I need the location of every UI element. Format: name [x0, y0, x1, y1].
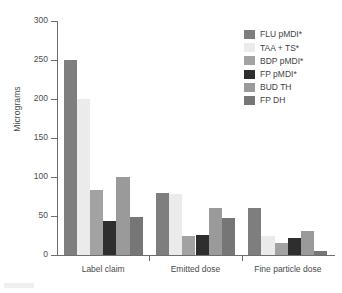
bar — [209, 208, 222, 255]
page-edge-artifact — [4, 283, 34, 288]
y-axis-tick-label: 300 — [34, 15, 48, 25]
bar — [196, 235, 209, 255]
y-axis-tick-label: 200 — [34, 93, 48, 103]
x-axis-category-label: Fine particle dose — [242, 264, 334, 274]
y-axis-tick-label: 250 — [34, 54, 48, 64]
bar — [301, 231, 314, 255]
legend-item-label: FLU pMDI* — [260, 30, 302, 39]
legend-swatch-icon — [244, 56, 255, 65]
bar-chart: Micrograms 050100150200250300 Label clai… — [0, 0, 342, 293]
legend-item: FLU pMDI* — [244, 28, 303, 41]
legend-item-label: FP DH — [260, 96, 285, 105]
bar — [275, 243, 288, 255]
x-axis-group-separator — [242, 255, 243, 261]
bar — [248, 208, 261, 255]
y-axis-tick-label: 100 — [34, 171, 48, 181]
y-axis-tick-label: 150 — [34, 132, 48, 142]
legend-item: BUD TH — [244, 81, 303, 94]
y-axis-tick-label: 0 — [43, 249, 48, 259]
y-axis-tick-mark — [51, 255, 57, 256]
bar — [90, 190, 103, 255]
legend-item: FP DH — [244, 94, 303, 107]
bar — [64, 60, 77, 255]
chart-legend: FLU pMDI*TAA + TS*BDP pMDI*FP pMDI*BUD T… — [244, 28, 303, 107]
bar — [103, 221, 116, 255]
bar — [130, 217, 143, 255]
bar — [77, 99, 90, 255]
bar — [156, 193, 169, 255]
legend-swatch-icon — [244, 83, 255, 92]
x-axis-line — [57, 255, 335, 256]
legend-swatch-icon — [244, 43, 255, 52]
x-axis-category-label: Emitted dose — [149, 264, 241, 274]
bar — [182, 236, 195, 256]
y-axis-title: Micrograms — [12, 54, 22, 164]
legend-item: FP pMDI* — [244, 68, 303, 81]
bar — [169, 194, 182, 255]
bar — [261, 236, 274, 256]
legend-swatch-icon — [244, 96, 255, 105]
bar — [288, 238, 301, 255]
legend-item-label: BUD TH — [260, 83, 292, 92]
legend-item-label: TAA + TS* — [260, 44, 299, 53]
legend-item-label: BDP pMDI* — [260, 57, 303, 66]
legend-item: BDP pMDI* — [244, 54, 303, 67]
bar — [116, 177, 129, 255]
bar — [314, 251, 327, 255]
legend-swatch-icon — [244, 70, 255, 79]
legend-swatch-icon — [244, 30, 255, 39]
legend-item-label: FP pMDI* — [260, 70, 297, 79]
x-axis-group-separator — [149, 255, 150, 261]
bar — [222, 218, 235, 255]
x-axis-category-label: Label claim — [57, 264, 149, 274]
legend-item: TAA + TS* — [244, 41, 303, 54]
y-axis-tick-label: 50 — [39, 210, 48, 220]
